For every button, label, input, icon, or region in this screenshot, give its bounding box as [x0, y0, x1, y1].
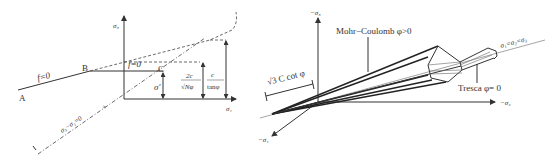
neg-sigma2-axis-label: −σ₂ [500, 99, 511, 107]
yield-line-ab [18, 71, 90, 90]
apex-distance-label: √3 C cot φ [266, 68, 306, 87]
mohr-coulomb-cone [272, 46, 462, 114]
point-c-label: C [158, 64, 164, 74]
frac1-denominator: √Nφ [181, 83, 194, 91]
point-a-label: A [19, 93, 26, 103]
tresca-label: Tresca φ= 0 [458, 83, 501, 93]
left-diagram: σ₃ σ₁ A B f=0 C f=0 σ₃−σ₁=0 + σ' 2c √Nφ [18, 12, 237, 154]
apex-dimension-tick-left [265, 92, 267, 101]
neg-sigma3-axis-label: −σ₃ [310, 9, 321, 17]
sigma-prime-label: σ' [154, 82, 161, 92]
hydrostatic-diagonal [38, 38, 205, 154]
hydrostatic-label: σ₁=σ₂=σ₃ [499, 35, 528, 50]
mohr-coulomb-label: Mohr−Coulomb φ>0 [336, 26, 412, 36]
frac2-numerator: c [211, 71, 215, 79]
neg-sigma1-axis-label: −σ₁ [258, 136, 269, 144]
frac1-numerator: 2c [186, 72, 194, 80]
sigma1-axis-label: σ₁ [226, 105, 232, 113]
sigma3-axis-label: σ₃ [113, 22, 119, 30]
frac2-denominator: tanφ [207, 83, 220, 91]
tresca-prism [460, 48, 497, 70]
point-b-label: B [82, 63, 88, 73]
yield-surface-figure: σ₃ σ₁ A B f=0 C f=0 σ₃−σ₁=0 + σ' 2c √Nφ [0, 0, 554, 165]
yield-dashed-upper [90, 12, 237, 71]
yield-label-left: f=0 [36, 70, 52, 83]
diagonal-tick-label: + [101, 103, 109, 112]
right-diagram: −σ₃ −σ₂ −σ₁ σ₁=σ₂=σ₃ [258, 9, 545, 144]
diagonal-arrow-end [33, 146, 36, 150]
